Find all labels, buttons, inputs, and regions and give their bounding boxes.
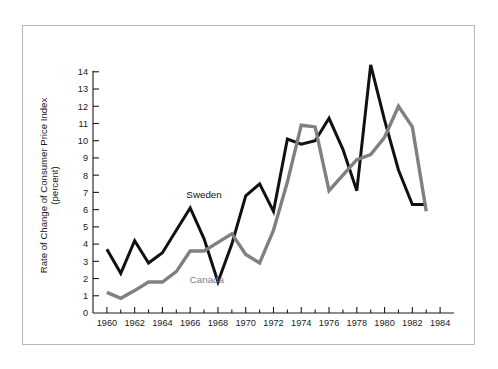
x-tick-label: 1984 bbox=[430, 318, 450, 328]
x-tick-label: 1972 bbox=[263, 318, 283, 328]
x-tick-label: 1970 bbox=[236, 318, 256, 328]
y-axis-title-line2: (percent) bbox=[49, 166, 60, 204]
y-tick-label: 7 bbox=[83, 188, 88, 198]
x-tick-label: 1966 bbox=[180, 318, 200, 328]
series-line-canada bbox=[107, 106, 426, 298]
y-tick-label: 13 bbox=[78, 84, 88, 94]
y-tick-label: 1 bbox=[83, 291, 88, 301]
x-tick-label: 1976 bbox=[319, 318, 339, 328]
series-label-canada: Canada bbox=[190, 274, 225, 285]
x-tick-label: 1960 bbox=[97, 318, 117, 328]
series-annotations: SwedenCanada bbox=[186, 189, 224, 285]
y-tick-label: 9 bbox=[83, 153, 88, 163]
figure-root: 0123456789101112131419601962196419661968… bbox=[0, 0, 498, 369]
y-tick-label: 2 bbox=[83, 274, 88, 284]
x-tick-label: 1980 bbox=[374, 318, 394, 328]
y-tick-label: 0 bbox=[83, 308, 88, 318]
y-tick-label: 8 bbox=[83, 171, 88, 181]
x-tick-label: 1962 bbox=[124, 318, 144, 328]
y-axis-title: Rate of Change of Consumer Price Index(p… bbox=[38, 98, 60, 274]
y-tick-label: 3 bbox=[83, 257, 88, 267]
x-tick-label: 1978 bbox=[347, 318, 367, 328]
figure-frame: 0123456789101112131419601962196419661968… bbox=[22, 25, 475, 345]
y-tick-label: 12 bbox=[78, 102, 88, 112]
y-tick-label: 5 bbox=[83, 222, 88, 232]
y-tick-label: 11 bbox=[78, 119, 88, 129]
x-tick-label: 1974 bbox=[291, 318, 311, 328]
x-tick-label: 1968 bbox=[208, 318, 228, 328]
y-tick-label: 14 bbox=[78, 67, 88, 77]
y-tick-label: 6 bbox=[83, 205, 88, 215]
series-label-sweden: Sweden bbox=[186, 189, 221, 200]
line-chart: 0123456789101112131419601962196419661968… bbox=[23, 26, 474, 344]
y-tick-label: 4 bbox=[83, 239, 88, 249]
x-tick-label: 1964 bbox=[152, 318, 172, 328]
x-tick-label: 1982 bbox=[402, 318, 422, 328]
y-tick-label: 10 bbox=[78, 136, 88, 146]
series-lines bbox=[107, 65, 426, 298]
y-axis-title-line1: Rate of Change of Consumer Price Index bbox=[38, 98, 49, 274]
